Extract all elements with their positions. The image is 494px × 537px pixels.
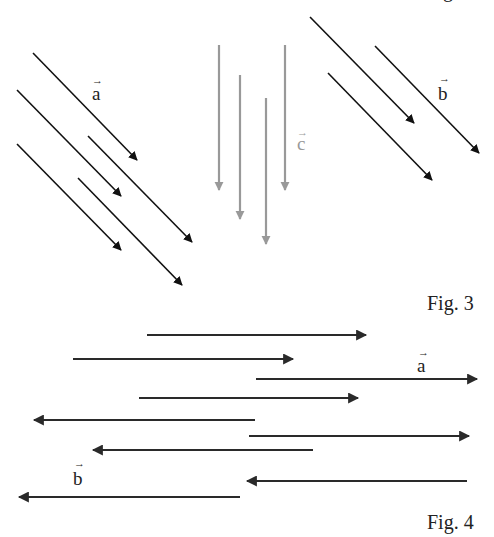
fig3-vector-group-c — [219, 45, 285, 244]
fig3-label-a-arrow: → — [92, 74, 103, 86]
fig3-vector-a-5 — [78, 178, 182, 285]
fig3-vector-a-4 — [17, 144, 121, 250]
fig4-label-b: b — [73, 468, 83, 489]
fig3-caption: Fig. 3 — [427, 292, 474, 315]
fig3-vector-a-3 — [88, 136, 192, 242]
fig4-label-a: a — [417, 355, 426, 376]
fig4-caption: Fig. 4 — [427, 511, 474, 534]
fig4-label-a-arrow: → — [418, 346, 429, 358]
fig3-vector-a-2 — [17, 90, 121, 196]
fig3-vector-a-1 — [33, 53, 137, 160]
vector-diagram: g a → c → b → Fig. 3 a → b → Fig. 4 — [0, 0, 494, 537]
fig4-label-b-arrow: → — [74, 457, 85, 469]
caption-fragment: g — [443, 0, 453, 2]
fig3-vector-group-a — [17, 53, 192, 285]
fig3-label-b: b — [438, 83, 448, 104]
fig3-label-a: a — [92, 83, 101, 104]
fig3-label-c-arrow: → — [297, 126, 308, 138]
fig3-vector-group-b — [310, 17, 479, 180]
fig3-label-b-arrow: → — [439, 72, 450, 84]
fig4-vectors — [19, 335, 477, 497]
